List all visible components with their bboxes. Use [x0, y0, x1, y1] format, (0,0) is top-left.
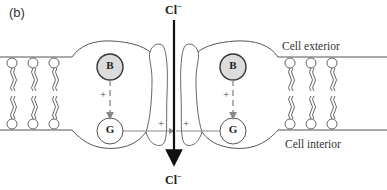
panel-label: (b): [9, 5, 25, 20]
chloride-label-bottom: Cl−: [165, 172, 182, 188]
cell-interior-label: Cell interior: [285, 138, 341, 150]
right-coupling-sign: +: [223, 88, 229, 100]
left-coupling-sign: +: [100, 88, 106, 100]
right-pore-lobe: [181, 44, 202, 145]
chloride-label-top: Cl−: [165, 2, 182, 18]
left-b-label: B: [100, 59, 120, 71]
chloride-channel-diagram: (b) Cl− Cl− Cell exterior Cell interior …: [0, 0, 387, 190]
cell-exterior-label: Cell exterior: [282, 40, 340, 52]
membrane-left: [0, 57, 72, 130]
right-pore-sign: +: [183, 117, 189, 129]
left-pore-sign: +: [158, 117, 164, 129]
diagram-graphics: [0, 0, 387, 190]
right-g-label: G: [223, 123, 243, 135]
left-pore-lobe: [146, 44, 167, 145]
right-b-label: B: [223, 59, 243, 71]
membrane-right: [278, 57, 387, 130]
left-g-label: G: [100, 123, 120, 135]
